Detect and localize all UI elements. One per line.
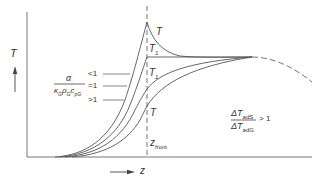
y-axis-arrow-icon — [13, 66, 17, 92]
front-label: zfront — [150, 138, 167, 150]
dashed-decline-curve — [252, 57, 312, 82]
curve-peak-decay — [147, 22, 252, 57]
condition-numerator: ΔTadS — [231, 109, 253, 120]
parameter-denominator: κGρGcpG — [54, 87, 81, 97]
x-axis-arrow-icon — [110, 170, 135, 174]
condition-denominator: ΔTadG — [231, 122, 254, 133]
case-greater-1: >1 — [88, 96, 97, 104]
condition-relation: > 1 — [259, 115, 270, 123]
curve-label-t1-upper: T1 — [149, 44, 158, 56]
case-equal-1: =1 — [88, 82, 97, 90]
x-axis-label: z — [140, 166, 145, 176]
curve-label-t1-lower: T1 — [149, 68, 158, 80]
case-less-than-1: <1 — [88, 70, 97, 78]
parameter-numerator: α — [66, 74, 71, 83]
curve-label-bottom: T — [150, 108, 156, 118]
curve-label-peak: T — [156, 27, 162, 37]
y-axis-label: T — [10, 48, 17, 59]
temperature-profile-diagram: T z T T1 T1 T zfront α κGρGcpG <1 =1 >1 … — [0, 0, 319, 182]
